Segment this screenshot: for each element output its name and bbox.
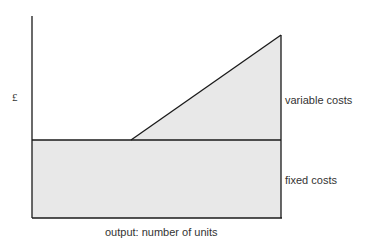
cost-diagram bbox=[0, 0, 371, 245]
variable-costs-label: variable costs bbox=[285, 95, 352, 106]
x-axis-label: output: number of units bbox=[105, 227, 218, 238]
fixed-costs-label: fixed costs bbox=[285, 175, 337, 186]
fixed-costs-area bbox=[32, 140, 281, 218]
y-axis-label: £ bbox=[12, 92, 18, 103]
